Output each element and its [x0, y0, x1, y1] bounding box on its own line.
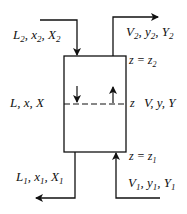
column-diagram: L2, x2, X2 V2, y2, Y2 z = z2 L, x, X z V…	[0, 0, 187, 214]
label-L1: L1, x1, X1	[15, 169, 63, 186]
label-z1: z = z1	[128, 149, 156, 165]
label-z: z	[129, 96, 135, 110]
label-L-x-X: L, x, X	[9, 95, 45, 110]
label-V1: V1, y1, Y1	[128, 175, 175, 192]
label-V-y-Y: V, y, Y	[144, 95, 177, 110]
diagram-svg: L2, x2, X2 V2, y2, Y2 z = z2 L, x, X z V…	[0, 0, 187, 214]
label-V2: V2, y2, Y2	[126, 24, 174, 41]
label-L2: L2, x2, X2	[12, 27, 61, 44]
label-z2: z = z2	[128, 53, 156, 69]
